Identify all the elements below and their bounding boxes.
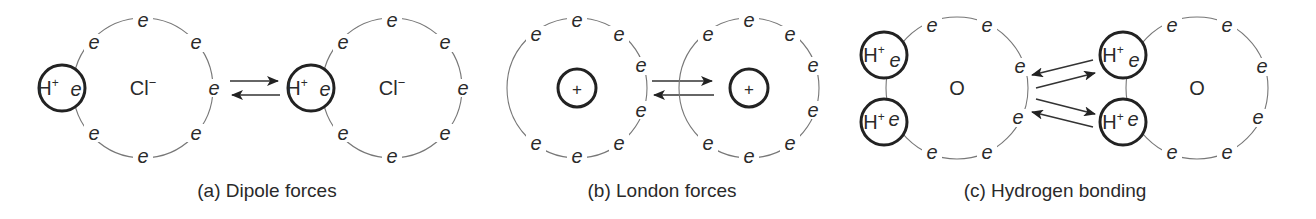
electron-ring: e e e e e e [922,14,1030,163]
electron: e [743,145,754,167]
electron: e [190,31,201,53]
electron-ring: e e e e e e e e [698,9,823,167]
chloride-label: Cl− [130,75,156,99]
arrow-right-icon [1036,99,1095,114]
caption-dipole-forces: (a) Dipole forces [197,180,336,201]
electron: e [926,141,937,163]
electron: e [1221,141,1232,163]
water-molecule-1: O H+ e H+ e e e e e e e [861,14,1030,163]
electron: e [190,122,201,144]
shared-electron: e [70,78,81,100]
electron: e [807,54,818,76]
shared-electron: e [1127,108,1138,130]
electron: e [784,132,795,154]
electron: e [1014,55,1025,77]
electron: e [613,23,624,45]
arrow-right-icon [1036,73,1095,88]
electron: e [571,145,582,167]
electron: e [439,31,450,53]
electron-ring: e e e e e e [1162,14,1272,163]
equilibrium-arrows [652,81,714,95]
equilibrium-arrows [230,81,280,95]
electron: e [926,14,937,36]
panel-dipole-forces: Cl− H+ e e e e e e e e Cl− H+ e [37,9,473,201]
electron: e [337,31,348,53]
electron: e [1166,14,1177,36]
electron: e [635,99,646,121]
shared-electron: e [1128,49,1139,71]
shared-electron: e [888,108,899,130]
electron: e [386,9,397,31]
water-molecule-2: O H+ e H+ e e e e e e e [1100,14,1272,163]
atom-1: + e e e e e e e e [507,9,651,167]
intermolecular-forces-diagram: Cl− H+ e e e e e e e e Cl− H+ e [0,0,1316,219]
oxygen-label: O [949,77,965,99]
electron: e [1252,106,1263,128]
electron: e [981,141,992,163]
electron: e [208,77,219,99]
shared-electron: e [319,78,330,100]
nucleus-plus-icon: + [744,80,754,99]
electron: e [807,99,818,121]
electron: e [1166,141,1177,163]
caption-hydrogen-bonding: (c) Hydrogen bonding [964,180,1147,201]
hcl-molecule-1: Cl− H+ e e e e e e e e [37,9,224,167]
oxygen-label: O [1189,77,1205,99]
electron: e [981,14,992,36]
caption-london-forces: (b) London forces [588,180,737,201]
electron: e [1256,55,1267,77]
electron: e [702,132,713,154]
nucleus-plus-icon: + [572,80,582,99]
electron: e [743,9,754,31]
panel-hydrogen-bonding: O H+ e H+ e e e e e e e O [861,14,1272,201]
arrow-left-icon [1032,112,1093,127]
electron: e [702,23,713,45]
electron-ring: e e e e e e e e [526,9,651,167]
shared-electron: e [889,49,900,71]
electron: e [137,9,148,31]
electron: e [88,122,99,144]
electron: e [88,31,99,53]
panel-london-forces: + e e e e e e e e + e e e [507,9,823,201]
electron: e [635,54,646,76]
electron: e [386,145,397,167]
electron: e [337,122,348,144]
electron: e [439,122,450,144]
electron: e [530,132,541,154]
chloride-label: Cl− [379,75,405,99]
arrow-left-icon [1032,60,1093,75]
electron: e [1221,14,1232,36]
atom-2: + e e e e e e e e [679,9,823,167]
electron: e [530,23,541,45]
electron: e [1012,106,1023,128]
hydrogen-bond-arrows [1032,60,1095,127]
electron: e [571,9,582,31]
electron: e [784,23,795,45]
electron: e [457,77,468,99]
hcl-molecule-2: Cl− H+ e e e e e e e e [286,9,473,167]
electron: e [137,145,148,167]
electron: e [613,132,624,154]
